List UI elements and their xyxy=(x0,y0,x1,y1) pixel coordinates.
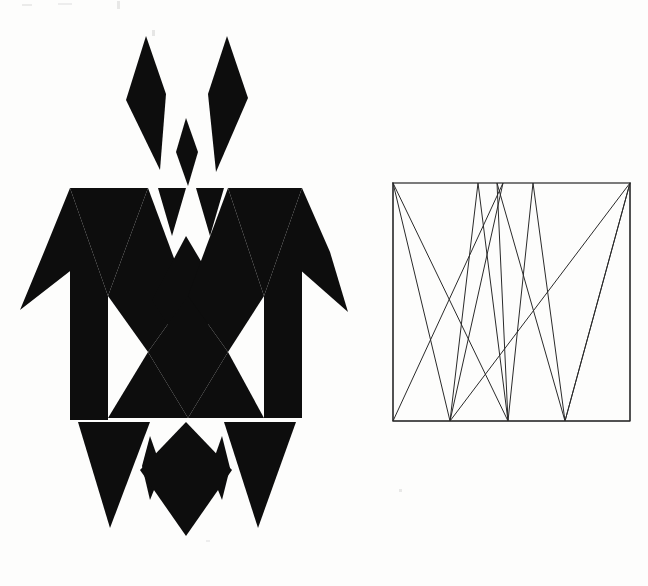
figure-canvas xyxy=(0,0,648,586)
figure-root: Geometric turtle motif with companion zi… xyxy=(0,0,648,586)
shell-zigzag-band-lower xyxy=(70,296,302,418)
shell-bottom-edge xyxy=(70,414,108,420)
